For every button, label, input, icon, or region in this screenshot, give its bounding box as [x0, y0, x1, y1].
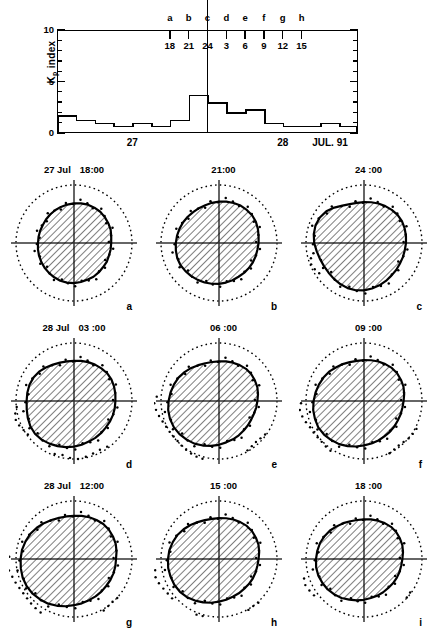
- kp-marker-tick: [301, 31, 302, 39]
- auroral-oval-panel-grid: 27 Jul18:00a21:00b24 :00c28 Jul03 :00d06…: [0, 160, 434, 640]
- polar-plot-f: [299, 336, 429, 466]
- panel-date-g: 28 Jul: [44, 480, 71, 491]
- auroral-panel-i: 18 :00i: [292, 476, 434, 636]
- auroral-panel-h: 15 :00h: [147, 476, 291, 636]
- kp-y-tick: [57, 132, 65, 133]
- auroral-panel-e: 06 :00e: [147, 318, 291, 478]
- panel-letter-d: d: [126, 459, 132, 470]
- kp-bar-top: [170, 120, 189, 122]
- kp-y-tick: [57, 122, 62, 123]
- panel-letter-g: g: [126, 617, 132, 628]
- kp-bar-top: [208, 102, 227, 104]
- panel-letter-f: f: [419, 459, 422, 470]
- panel-title-d: 28 Jul03 :00: [2, 322, 146, 333]
- polar-plot-d: [9, 336, 139, 466]
- polar-plot-c: [299, 178, 429, 308]
- kp-marker-hour-h: 15: [294, 40, 310, 51]
- panel-letter-e: e: [271, 459, 277, 470]
- kp-marker-letter-e: e: [238, 12, 252, 23]
- kp-marker-hour-d: 3: [218, 40, 234, 51]
- kp-y-tick: [57, 71, 62, 72]
- kp-marker-tick: [282, 31, 283, 39]
- kp-marker-hour-c: 24: [200, 40, 216, 51]
- panel-time-f: 09 :00: [355, 322, 382, 333]
- kp-y-tick-right: [353, 91, 358, 92]
- panel-title-c: 24 :00: [292, 164, 434, 175]
- kp-x-day-label: 27: [120, 137, 144, 148]
- kp-marker-tick: [244, 31, 245, 39]
- kp-marker-hour-g: 12: [275, 40, 291, 51]
- kp-y-tick-right: [353, 71, 358, 72]
- kp-marker-tick: [226, 31, 227, 39]
- kp-y-tick: [57, 101, 62, 102]
- polar-plot-e: [154, 336, 284, 466]
- kp-bar-top: [189, 95, 208, 97]
- panel-letter-c: c: [416, 301, 422, 312]
- panel-title-h: 15 :00: [147, 480, 291, 491]
- kp-y-tick-right: [353, 60, 358, 61]
- auroral-panel-a: 27 Jul18:00a: [2, 160, 146, 320]
- panel-letter-a: a: [126, 301, 132, 312]
- kp-marker-tick: [188, 31, 189, 39]
- panel-date-d: 28 Jul: [43, 322, 70, 333]
- kp-x-month-year-label: JUL. 91: [300, 137, 360, 148]
- panel-letter-i: i: [419, 617, 422, 628]
- auroral-oval-region: [314, 202, 406, 290]
- panel-time-c: 24 :00: [355, 164, 382, 175]
- kp-marker-hour-f: 9: [256, 40, 272, 51]
- auroral-panel-d: 28 Jul03 :00d: [2, 318, 146, 478]
- auroral-oval-region: [168, 518, 259, 603]
- panel-letter-b: b: [271, 301, 277, 312]
- kp-y-tick-right: [350, 132, 358, 133]
- polar-plot-a: [9, 178, 139, 308]
- auroral-oval-region: [316, 519, 403, 600]
- kp-marker-letter-h: h: [295, 12, 309, 23]
- polar-plot-g: [9, 494, 139, 624]
- kp-y-tick-right: [350, 29, 358, 30]
- kp-bar-top: [226, 112, 245, 114]
- kp-y-tick-right: [353, 101, 358, 102]
- kp-y-tick: [57, 50, 62, 51]
- panel-time-i: 18 :00: [355, 480, 382, 491]
- kp-marker-tick: [263, 31, 264, 39]
- panel-title-e: 06 :00: [147, 322, 291, 333]
- polar-plot-h: [154, 494, 284, 624]
- kp-marker-letter-a: a: [163, 12, 177, 23]
- panel-date-a: 27 Jul: [44, 164, 71, 175]
- kp-marker-letter-c: c: [201, 12, 215, 23]
- kp-bar-riser: [189, 95, 191, 121]
- panel-title-a: 27 Jul18:00: [2, 164, 146, 175]
- kp-marker-hour-e: 6: [237, 40, 253, 51]
- kp-y-tick: [57, 60, 62, 61]
- auroral-panel-f: 09 :00f: [292, 318, 434, 478]
- auroral-panel-g: 28 Jul12:00g: [2, 476, 146, 636]
- kp-y-tick-right: [350, 81, 358, 82]
- kp-y-tick: [57, 40, 62, 41]
- panel-time-g: 12:00: [80, 480, 104, 491]
- panel-title-f: 09 :00: [292, 322, 434, 333]
- kp-bar-top: [95, 123, 114, 125]
- scattered-measurement-dots: [310, 257, 321, 274]
- kp-marker-hour-b: 21: [181, 40, 197, 51]
- panel-title-g: 28 Jul12:00: [2, 480, 146, 491]
- panel-title-b: 21:00: [147, 164, 291, 175]
- kp-bar-top: [339, 126, 358, 128]
- kp-marker-hour-a: 18: [162, 40, 178, 51]
- kp-bar-top: [57, 115, 76, 117]
- panel-time-h: 15 :00: [210, 480, 237, 491]
- kp-y-tick: [57, 91, 62, 92]
- kp-y-tick-right: [353, 50, 358, 51]
- kp-marker-letter-f: f: [257, 12, 271, 23]
- panel-time-d: 03 :00: [79, 322, 106, 333]
- kp-bar-riser: [57, 115, 59, 133]
- kp-marker-letter-b: b: [182, 12, 196, 23]
- kp-bar-top: [302, 126, 321, 128]
- kp-y-tick-label: 10: [32, 24, 54, 35]
- polar-plot-b: [154, 178, 284, 308]
- kp-bar-top: [151, 126, 170, 128]
- kp-y-tick-right: [353, 122, 358, 123]
- panel-time-e: 06 :00: [210, 322, 237, 333]
- kp-y-tick-right: [353, 112, 358, 113]
- kp-bar-top: [320, 123, 339, 125]
- kp-index-chart: Kp index 1050 a18b21c24d3e6f9g12h15 2728…: [0, 0, 434, 160]
